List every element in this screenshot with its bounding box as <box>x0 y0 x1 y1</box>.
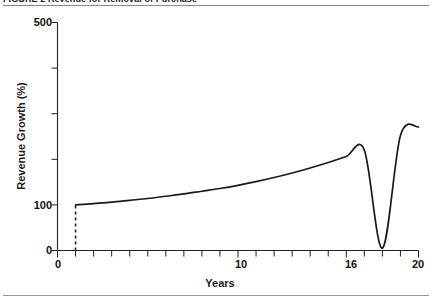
axis-lines <box>58 23 419 251</box>
y-tick-label-500: 500 <box>18 16 52 28</box>
chart-plot-svg <box>0 0 432 290</box>
x-axis-title: Years <box>180 277 260 289</box>
x-tick-label-10: 10 <box>224 258 258 270</box>
tick-marks <box>52 23 419 258</box>
y-tick-label-0: 0 <box>18 244 52 256</box>
data-series-line <box>76 124 419 248</box>
y-axis-title: Revenue Growth (%) <box>15 76 27 196</box>
x-tick-label-0: 0 <box>41 258 75 270</box>
figure-divider-bottom <box>3 295 429 296</box>
x-tick-label-16: 16 <box>334 258 368 270</box>
x-tick-label-20: 20 <box>401 258 432 270</box>
series-paths <box>76 124 419 250</box>
y-tick-label-100: 100 <box>18 199 52 211</box>
revenue-growth-chart: 500 100 0 0 10 16 20 Revenue Growth (%) … <box>0 0 432 290</box>
